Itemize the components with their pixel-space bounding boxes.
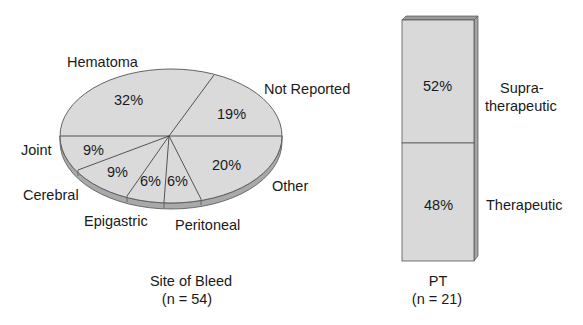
pie-label-hematoma: Hematoma <box>67 54 139 70</box>
bar-label-therapeutic: Therapeutic <box>486 197 563 213</box>
pie-pct-peritoneal: 6% <box>167 173 188 189</box>
bar-label-supra-line1: Supra- <box>500 80 544 96</box>
pie-pct-other: 20% <box>212 157 241 173</box>
pie-label-peritoneal: Peritoneal <box>175 217 240 233</box>
bar-pct-therapeutic: 48% <box>424 197 453 213</box>
figure: 32% 19% 20% 9% 9% 6% 6% Hematoma Not Rep… <box>0 0 583 325</box>
bar-title: PT <box>429 273 448 289</box>
pie-label-cerebral: Cerebral <box>23 187 79 203</box>
bar-side-face <box>474 16 478 261</box>
pie-label-other: Other <box>272 178 308 194</box>
pie-title: Site of Bleed <box>150 273 232 289</box>
pie-pct-not-reported: 19% <box>217 106 246 122</box>
bar-top-face <box>402 16 478 20</box>
pie-chart: 32% 19% 20% 9% 9% 6% 6% Hematoma Not Rep… <box>21 54 350 307</box>
bar-pct-supratherapeutic: 52% <box>423 78 452 94</box>
pie-pct-cerebral: 9% <box>107 164 128 180</box>
pie-label-joint: Joint <box>21 142 52 158</box>
pt-bar-chart: 52% 48% Supra- therapeutic Therapeutic P… <box>402 16 563 307</box>
pie-label-epigastric: Epigastric <box>84 213 148 229</box>
pie-label-not-reported: Not Reported <box>264 81 350 97</box>
bar-label-supra-line2: therapeutic <box>485 98 557 114</box>
pie-pct-epigastric: 6% <box>140 173 161 189</box>
pie-pct-joint: 9% <box>83 142 104 158</box>
pie-pct-hematoma: 32% <box>114 92 143 108</box>
pie-n: (n = 54) <box>162 291 212 307</box>
bar-n: (n = 21) <box>412 291 462 307</box>
